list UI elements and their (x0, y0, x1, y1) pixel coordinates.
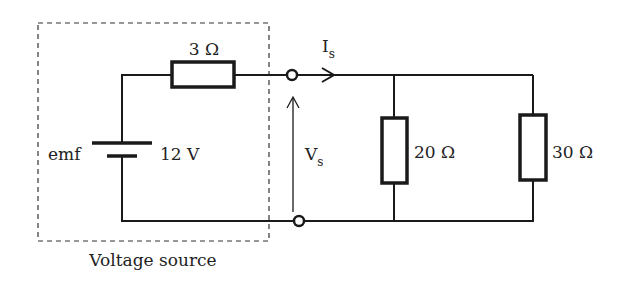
voltage-source-label: Voltage source (88, 250, 216, 270)
resistor-internal-icon (172, 62, 234, 87)
current-label: Is (322, 36, 335, 61)
voltage-source-box (38, 23, 269, 241)
top-terminal-icon (287, 70, 297, 80)
emf-value: 12 V (160, 144, 200, 164)
emf-label: emf (48, 144, 82, 164)
voltage-label: Vs (304, 144, 323, 169)
battery-icon (92, 143, 152, 156)
resistor-load1-icon (382, 118, 407, 183)
resistor-load2-icon (520, 115, 546, 180)
bottom-terminal-icon (294, 216, 304, 226)
internal-resistance-label: 3 Ω (189, 39, 219, 59)
load2-label: 30 Ω (552, 142, 593, 162)
circuit-diagram: Voltage source emf 12 V 3 Ω Is Vs 20 Ω 3… (0, 0, 622, 284)
load1-label: 20 Ω (414, 142, 455, 162)
